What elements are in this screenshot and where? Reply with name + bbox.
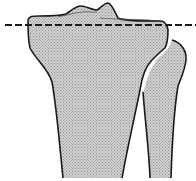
- bone-diagram: [0, 0, 196, 181]
